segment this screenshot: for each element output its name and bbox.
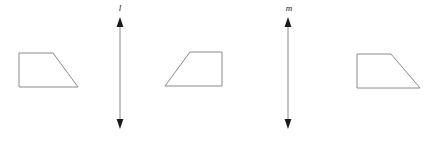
geometry-figure-svg: l m <box>0 0 442 141</box>
reflection-line-m-group: m <box>285 3 293 129</box>
arrowhead-up-m <box>285 17 292 27</box>
arrowhead-down-m <box>285 119 292 129</box>
arrowhead-up-l <box>117 17 124 27</box>
reflection-line-m-label: m <box>286 3 293 13</box>
middle-trapezoid <box>165 52 222 86</box>
right-trapezoid <box>357 54 420 88</box>
left-trapezoid <box>19 53 78 87</box>
reflection-line-l-group: l <box>117 3 124 129</box>
reflection-line-l-label: l <box>119 3 122 13</box>
geometry-figure-canvas: l m <box>0 0 442 141</box>
arrowhead-down-l <box>117 119 124 129</box>
